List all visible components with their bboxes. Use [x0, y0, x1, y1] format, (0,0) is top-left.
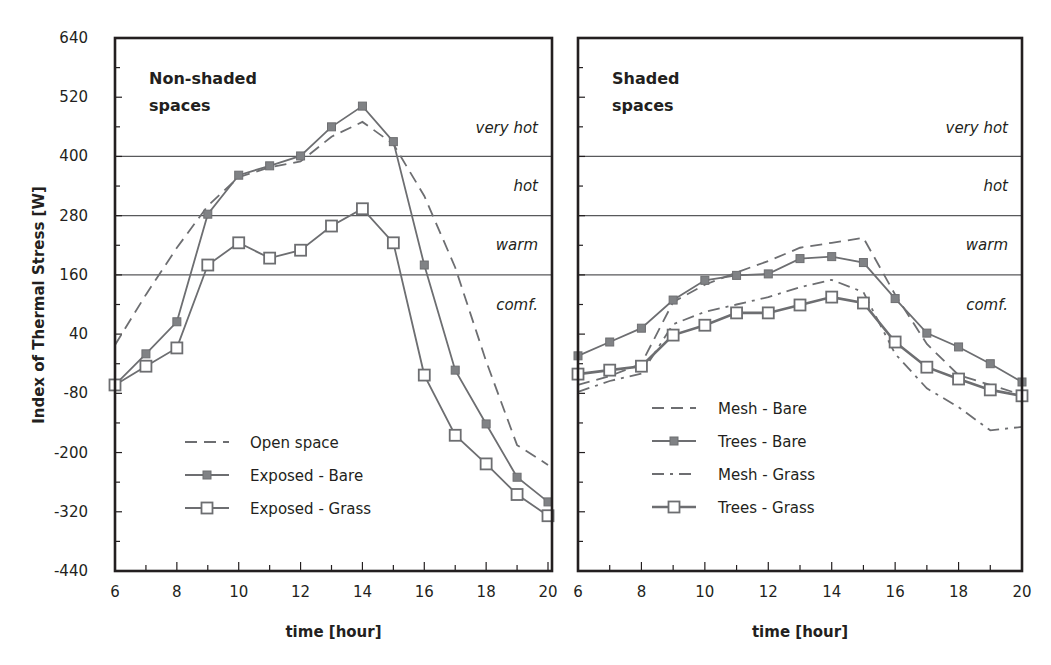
data-point-marker: [140, 361, 151, 372]
panel-title: spaces: [149, 96, 211, 115]
data-point-marker: [953, 374, 964, 385]
data-point-marker: [891, 295, 899, 303]
panel-shaded: very hothotwarmcomf.Shadedspaces68101214…: [573, 38, 1032, 641]
data-point-marker: [731, 307, 742, 318]
x-tick-label: 16: [415, 583, 434, 601]
data-point-marker: [264, 253, 275, 264]
x-tick-label: 6: [110, 583, 120, 601]
data-point-marker: [419, 370, 430, 381]
data-point-marker: [764, 270, 772, 278]
data-point-marker: [699, 320, 710, 331]
data-point-marker: [955, 343, 963, 351]
data-point-marker: [826, 292, 837, 303]
legend-label: Mesh - Grass: [718, 466, 815, 484]
y-tick-label: -80: [64, 384, 89, 402]
zone-label: warm: [496, 236, 538, 254]
x-axis-title: time [hour]: [285, 623, 381, 641]
x-tick-label: 8: [637, 583, 647, 601]
legend-label: Exposed - Bare: [250, 467, 363, 485]
data-point-marker: [513, 473, 521, 481]
legend-label: Open space: [250, 434, 339, 452]
data-point-marker: [604, 365, 615, 376]
x-axis-title: time [hour]: [752, 623, 848, 641]
y-tick-label: 640: [59, 29, 88, 47]
data-point-marker: [235, 171, 243, 179]
data-point-marker: [606, 338, 614, 346]
data-point-marker: [859, 259, 867, 267]
zone-label: comf.: [966, 296, 1008, 314]
data-point-marker: [858, 298, 869, 309]
data-point-marker: [763, 307, 774, 318]
legend-marker: [670, 437, 678, 445]
y-tick-label: 400: [59, 147, 88, 165]
x-tick-label: 20: [538, 583, 557, 601]
zone-label: comf.: [496, 296, 538, 314]
data-point-marker: [358, 102, 366, 110]
x-tick-label: 6: [573, 583, 583, 601]
data-point-marker: [388, 237, 399, 248]
x-tick-label: 16: [886, 583, 905, 601]
panel-non-shaded: very hothotwarmcomf.Non-shadedspaces6810…: [110, 38, 558, 641]
data-point-marker: [173, 318, 181, 326]
data-point-marker: [357, 203, 368, 214]
x-tick-label: 10: [229, 583, 248, 601]
x-tick-label: 14: [353, 583, 372, 601]
data-point-marker: [450, 430, 461, 441]
data-point-marker: [796, 255, 804, 263]
x-tick-label: 8: [172, 583, 182, 601]
legend-label: Exposed - Grass: [250, 500, 371, 518]
data-point-marker: [701, 276, 709, 284]
data-point-marker: [295, 245, 306, 256]
data-point-marker: [668, 330, 679, 341]
zone-label: very hot: [946, 119, 1010, 137]
legend-label: Trees - Grass: [717, 499, 815, 517]
data-point-marker: [986, 360, 994, 368]
y-tick-label: 160: [59, 266, 88, 284]
x-tick-label: 20: [1012, 583, 1031, 601]
legend-label: Mesh - Bare: [718, 400, 807, 418]
data-point-marker: [923, 329, 931, 337]
data-point-marker: [985, 384, 996, 395]
legend-label: Trees - Bare: [717, 433, 807, 451]
y-tick-label: 40: [69, 325, 88, 343]
y-tick-label: -440: [54, 562, 88, 580]
data-point-marker: [828, 253, 836, 261]
x-tick-label: 18: [477, 583, 496, 601]
x-tick-label: 14: [822, 583, 841, 601]
data-point-marker: [142, 350, 150, 358]
data-point-marker: [233, 237, 244, 248]
y-tick-label: -200: [54, 444, 88, 462]
data-point-marker: [482, 420, 490, 428]
y-tick-label: 520: [59, 88, 88, 106]
y-axis-title: Index of Thermal Stress [W]: [30, 186, 48, 424]
legend-marker: [669, 502, 680, 513]
data-point-marker: [795, 299, 806, 310]
y-tick-label: -320: [54, 503, 88, 521]
panel-title: Non-shaded: [149, 69, 257, 88]
data-point-marker: [733, 271, 741, 279]
data-point-marker: [890, 337, 901, 348]
series-line-open-space: [115, 122, 548, 465]
x-tick-label: 12: [291, 583, 310, 601]
legend-marker: [203, 471, 211, 479]
data-point-marker: [669, 296, 677, 304]
y-tick-label: 280: [59, 207, 88, 225]
thermal-stress-chart: 64052040028016040-80-200-320-440 Index o…: [0, 0, 1051, 665]
data-point-marker: [420, 261, 428, 269]
data-point-marker: [171, 342, 182, 353]
data-point-marker: [204, 210, 212, 218]
x-tick-label: 18: [949, 583, 968, 601]
data-point-marker: [451, 366, 459, 374]
data-point-marker: [512, 489, 523, 500]
data-point-marker: [326, 221, 337, 232]
x-tick-label: 12: [759, 583, 778, 601]
zone-label: warm: [966, 236, 1008, 254]
data-point-marker: [266, 162, 274, 170]
zone-label: hot: [983, 177, 1009, 195]
data-point-marker: [481, 458, 492, 469]
zone-label: hot: [513, 177, 539, 195]
data-point-marker: [328, 123, 336, 131]
y-axis: 64052040028016040-80-200-320-440: [54, 29, 88, 580]
data-point-marker: [202, 260, 213, 271]
data-point-marker: [389, 138, 397, 146]
